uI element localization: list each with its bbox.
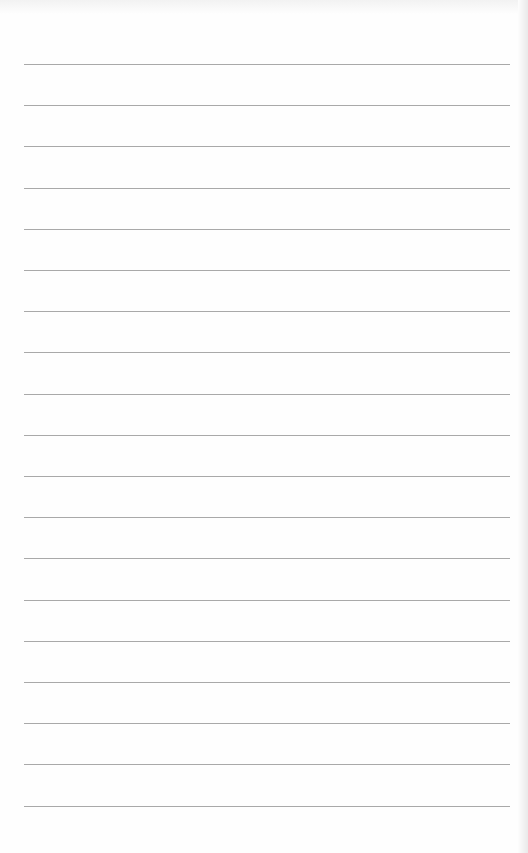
ruled-line: [24, 352, 510, 353]
lined-paper-page: [0, 0, 528, 853]
ruled-line: [24, 229, 510, 230]
ruled-line: [24, 558, 510, 559]
ruled-line: [24, 723, 510, 724]
ruled-line: [24, 435, 510, 436]
ruled-line: [24, 105, 510, 106]
ruled-line: [24, 146, 510, 147]
ruled-line: [24, 64, 510, 65]
ruled-line: [24, 517, 510, 518]
ruled-line: [24, 476, 510, 477]
ruled-line: [24, 682, 510, 683]
ruled-line: [24, 394, 510, 395]
ruled-line: [24, 764, 510, 765]
ruled-line: [24, 311, 510, 312]
ruled-line: [24, 270, 510, 271]
right-edge-shadow: [518, 0, 528, 853]
ruled-line: [24, 188, 510, 189]
ruled-line: [24, 600, 510, 601]
ruled-line: [24, 641, 510, 642]
ruled-line: [24, 806, 510, 807]
top-scan-shadow: [0, 0, 528, 14]
